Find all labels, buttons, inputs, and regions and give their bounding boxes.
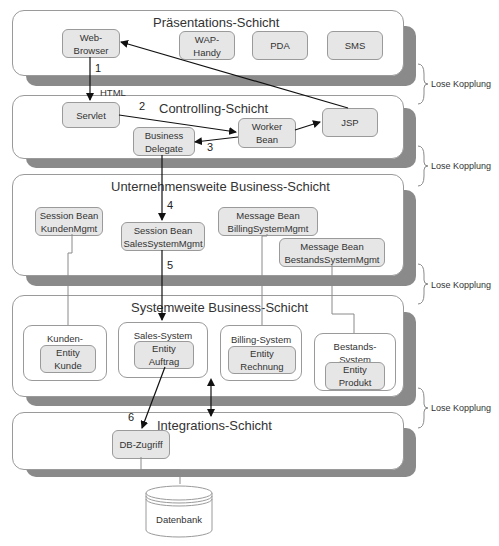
- servlet-box[interactable]: Servlet: [62, 102, 120, 128]
- enterprise-layer-title: Unternehmensweite Business-Schicht: [111, 179, 330, 194]
- entity-rechnung-box[interactable]: Entity Rechnung: [228, 346, 296, 374]
- step-3-label: 3: [207, 141, 213, 153]
- business-delegate-box[interactable]: Business Delegate: [133, 127, 195, 156]
- worker-bean-box[interactable]: Worker Bean: [238, 118, 296, 148]
- integration-layer-title: Integrations-Schicht: [157, 418, 272, 433]
- entity-produkt-box[interactable]: Entity Produkt: [325, 362, 385, 390]
- controlling-layer-title: Controlling-Schicht: [159, 101, 268, 116]
- step-6-label: 6: [128, 411, 134, 423]
- entity-kunde-box[interactable]: Entity Kunde: [40, 345, 96, 373]
- database[interactable]: Datenbank: [145, 484, 213, 538]
- database-label: Datenbank: [145, 514, 213, 525]
- step-2-label: 2: [139, 100, 145, 112]
- sms-box[interactable]: SMS: [327, 31, 383, 60]
- web-browser-box[interactable]: Web- Browser: [62, 29, 120, 58]
- session-bean-kunden-box[interactable]: Session Bean KundenMgmt: [35, 207, 103, 236]
- loose-coupling-label-4: Lose Kopplung: [431, 403, 491, 413]
- presentation-layer-title: Präsentations-Schicht: [153, 15, 279, 30]
- pda-box[interactable]: PDA: [252, 31, 308, 60]
- wap-handy-box[interactable]: WAP- Handy: [179, 31, 235, 60]
- loose-coupling-label-3: Lose Kopplung: [431, 280, 491, 290]
- loose-coupling-label-2: Lose Kopplung: [431, 161, 491, 171]
- group-label: Billing-System: [221, 333, 301, 346]
- db-access-box[interactable]: DB-Zugriff: [112, 430, 170, 459]
- loose-coupling-label-1: Lose Kopplung: [431, 79, 491, 89]
- message-bean-billing-box[interactable]: Message Bean BillingSystemMgmt: [218, 207, 318, 236]
- step-4-label: 4: [167, 199, 173, 211]
- html-label: HTML: [100, 87, 126, 98]
- database-cylinder-icon: [145, 484, 213, 538]
- integration-layer: Integrations-Schicht: [12, 412, 404, 470]
- step-1-label: 1: [95, 62, 101, 74]
- entity-auftrag-box[interactable]: Entity Auftrag: [134, 341, 194, 369]
- message-bean-bestands-box[interactable]: Message Bean BestandsSystemMgmt: [279, 238, 385, 267]
- step-5-label: 5: [167, 259, 173, 271]
- session-bean-sales-box[interactable]: Session Bean SalesSystemMgmt: [121, 222, 205, 251]
- systemwide-layer-title: Systemweite Business-Schicht: [131, 300, 308, 315]
- jsp-box[interactable]: JSP: [322, 108, 378, 137]
